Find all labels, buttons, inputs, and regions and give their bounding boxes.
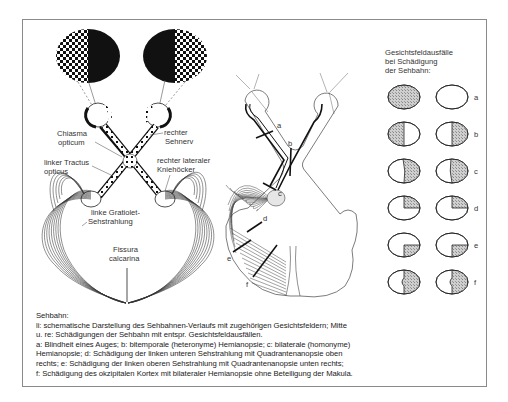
- svg-text:Kniehöcker: Kniehöcker: [157, 165, 195, 174]
- middle-lesion-diagram: a b c d e f: [226, 73, 358, 297]
- caption-line: li: schematische Darstellung des Sehbahn…: [36, 321, 486, 331]
- svg-text:calcarina: calcarina: [109, 254, 140, 263]
- left-visual-pathway-diagram: Chiasma opticum rechter Sehnerv linker T…: [42, 28, 214, 303]
- svg-text:rechter: rechter: [164, 128, 188, 137]
- panel-title-line-1: Gesichtsfeldausfälle: [385, 48, 453, 57]
- visual-field-row-b: b: [388, 122, 478, 146]
- visual-field-defects-panel: Gesichtsfeldausfälle bei Schädigung der …: [385, 48, 479, 294]
- right-eye-field: [436, 233, 468, 257]
- left-eye-field: [388, 122, 420, 146]
- middle-lateral-geniculate: [267, 190, 285, 206]
- caption-title: Sehbahn:: [36, 311, 486, 321]
- left-eye-field: [388, 270, 420, 294]
- svg-text:Fissura: Fissura: [113, 245, 139, 254]
- svg-text:rechter lateraler: rechter lateraler: [157, 156, 211, 165]
- svg-text:linke Gratiolet-: linke Gratiolet-: [91, 208, 140, 217]
- visual-field-row-label: d: [474, 204, 478, 213]
- visual-field-row-label: e: [474, 241, 478, 250]
- right-eye-field: [436, 270, 468, 294]
- lesion-label-d: d: [263, 214, 267, 223]
- right-eye-field: [436, 122, 468, 146]
- panel-title-line-3: der Sehbahn:: [385, 66, 431, 75]
- visual-field-row-f: f: [388, 270, 477, 294]
- left-eye-field: [388, 85, 420, 109]
- svg-text:opticum: opticum: [58, 138, 85, 147]
- visual-field-row-label: f: [474, 278, 477, 287]
- svg-text:Sehnerv: Sehnerv: [165, 137, 193, 146]
- lesion-label-e: e: [227, 254, 231, 263]
- visual-field-row-label: b: [474, 130, 478, 139]
- lesion-label-b: b: [288, 139, 292, 148]
- lesion-bar-b: [290, 148, 291, 176]
- visual-field-row-d: d: [388, 196, 478, 220]
- caption-line: rechts; e: Schädigung der linken oberen …: [36, 359, 486, 369]
- label-gratiolet-sehstrahlung: linke Gratiolet- Sehstrahlung: [82, 208, 140, 226]
- label-fissura-calcarina: Fissura calcarina: [109, 245, 140, 263]
- left-eye-field: [388, 196, 420, 220]
- optic-nerves-chiasma: [99, 126, 161, 196]
- caption-line: f: Schädigung des okzipitalen Kortex mit…: [36, 369, 486, 379]
- visual-field-row-label: c: [474, 167, 478, 176]
- lesion-label-f: f: [246, 280, 249, 289]
- left-eye-field: [388, 159, 420, 183]
- svg-text:Chiasma: Chiasma: [57, 129, 88, 138]
- right-eye-visual-field: [141, 28, 211, 86]
- visual-field-row-a: a: [388, 85, 479, 109]
- optic-radiations: [42, 172, 214, 303]
- visual-field-row-label: a: [474, 93, 479, 102]
- left-eye-field: [388, 233, 420, 257]
- right-eye-field: [436, 159, 468, 183]
- right-eye-field: [436, 196, 468, 220]
- right-eye-field: [436, 85, 468, 109]
- right-eyeball: [146, 103, 171, 127]
- left-eye-visual-field: [54, 28, 124, 86]
- lesion-bar-d: [247, 222, 262, 232]
- visual-field-row-e: e: [388, 233, 478, 257]
- label-linker-tractus-opticus: linker Tractus opticus: [44, 158, 111, 176]
- svg-text:linker Tractus: linker Tractus: [44, 158, 89, 167]
- caption-line: a: Blindheit eines Auges; b: bitemporale…: [36, 340, 486, 350]
- lesion-label-c: c: [278, 189, 282, 198]
- figure-caption: Sehbahn: li: schematische Darstellung de…: [36, 311, 486, 378]
- caption-line: Hemianopsie; d: Schädigung der linken un…: [36, 349, 486, 359]
- left-eyeball: [86, 103, 111, 127]
- panel-title-line-2: bei Schädigung: [385, 57, 437, 66]
- visual-field-row-c: c: [388, 159, 478, 183]
- svg-text:opticus: opticus: [44, 167, 68, 176]
- caption-line: u. re: Schädigungen der Sehbahn mit ents…: [36, 330, 486, 340]
- lesion-label-a: a: [277, 121, 282, 130]
- svg-text:Sehstrahlung: Sehstrahlung: [88, 217, 133, 226]
